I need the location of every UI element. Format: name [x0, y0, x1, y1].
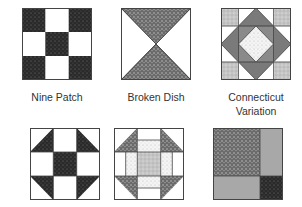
broken-dish-block [121, 8, 191, 80]
broken-dish-label: Broken Dish [109, 90, 203, 104]
nine-patch-block [22, 8, 92, 80]
shoofly-block [30, 128, 100, 200]
connecticut-label-line2: Variation [208, 104, 302, 118]
churn-dash-block [114, 128, 184, 200]
connecticut-label-line1: Connecticut [208, 90, 302, 104]
nine-patch-label: Nine Patch [10, 90, 104, 104]
connecticut-variation-label: Connecticut Variation [208, 90, 302, 118]
connecticut-variation-block [221, 8, 291, 80]
rectangle-block [213, 128, 283, 200]
